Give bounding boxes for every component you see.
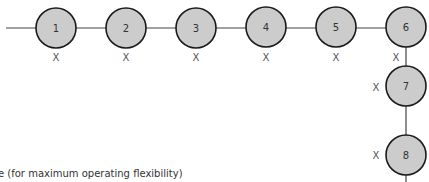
node-8: 8X <box>373 135 426 175</box>
node-4: 4X <box>246 7 286 63</box>
node-7: 7X <box>373 66 426 106</box>
bus-network-diagram: 1X2X3X4X5X6X7X8X <box>0 0 429 182</box>
node-label: 1 <box>53 23 59 34</box>
node-label: 2 <box>123 23 129 34</box>
connector-lines <box>6 28 406 182</box>
node-label: 6 <box>403 22 409 33</box>
node-label: 8 <box>403 150 409 161</box>
node-5: 5X <box>316 7 356 63</box>
x-mark: X <box>373 150 380 161</box>
x-mark: X <box>53 52 60 63</box>
x-mark: X <box>333 52 340 63</box>
x-mark: X <box>123 52 130 63</box>
node-label: 4 <box>263 22 269 33</box>
node-2: 2X <box>106 8 146 63</box>
x-mark: X <box>393 52 400 63</box>
x-mark: X <box>373 82 380 93</box>
node-1: 1X <box>36 8 76 63</box>
node-label: 3 <box>193 23 199 34</box>
node-label: 5 <box>333 22 339 33</box>
caption-text: e (for maximum operating flexibility) <box>0 168 183 179</box>
node-3: 3X <box>176 8 216 63</box>
x-mark: X <box>193 52 200 63</box>
node-label: 7 <box>403 81 409 92</box>
nodes: 1X2X3X4X5X6X7X8X <box>36 7 426 175</box>
x-mark: X <box>263 52 270 63</box>
